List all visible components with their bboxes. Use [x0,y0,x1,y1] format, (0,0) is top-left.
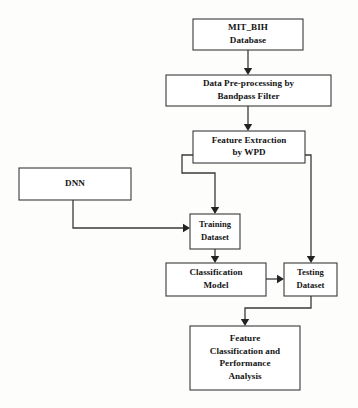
node-testing_dataset[interactable]: TestingDataset [284,263,337,296]
flowchart-canvas: MIT_BIHDatabaseData Pre-processing byBan… [0,0,358,408]
arrowhead-icon [277,275,284,283]
edge-testing-to-feature-classification [241,296,311,326]
node-label: Data Pre-processing by [203,78,295,88]
node-label: by WPD [232,147,266,157]
edge-database-to-preprocessing [244,50,252,75]
node-label: Bandpass Filter [217,91,279,101]
node-label: Feature Extraction [212,135,287,145]
node-label: Testing [297,267,324,277]
node-label: Dataset [201,232,229,242]
arrowhead-icon [211,207,219,214]
node-training_dataset[interactable]: TrainingDataset [190,214,240,249]
connector-line [245,296,311,320]
node-dnn[interactable]: DNN [19,168,131,200]
nodes-layer: MIT_BIHDatabaseData Pre-processing byBan… [19,19,337,390]
node-classification_model[interactable]: ClassificationModel [166,263,266,296]
edge-training-to-classification [211,249,219,263]
node-label: Classification and [210,346,280,356]
arrowhead-icon [244,68,252,75]
node-label: Model [203,280,228,290]
flowchart-page: MIT_BIHDatabaseData Pre-processing byBan… [0,0,358,408]
arrowhead-icon [307,256,315,263]
node-label: Performance [219,358,270,368]
connector-line [73,200,184,228]
arrowhead-icon [241,319,249,326]
node-label: Database [230,35,266,45]
node-label: DNN [65,178,85,188]
edge-preprocessing-to-extraction [244,106,252,131]
node-data_preprocessing[interactable]: Data Pre-processing byBandpass Filter [166,75,331,106]
node-label: Feature [230,333,260,343]
node-label: MIT_BIH [228,22,268,32]
arrowhead-icon [211,256,219,263]
node-label: Analysis [228,371,262,381]
node-feature_classification[interactable]: FeatureClassification andPerformanceAnal… [190,326,300,390]
edge-extraction-to-training [182,155,219,214]
edge-classification-to-testing [266,275,284,283]
arrowhead-icon [244,124,252,131]
arrowhead-icon [183,224,190,232]
edge-dnn-to-training [73,200,190,232]
connector-line [305,155,311,257]
node-mit_bih_database[interactable]: MIT_BIHDatabase [193,19,303,50]
node-label: Training [199,219,232,229]
edge-extraction-to-testing [305,155,315,263]
node-label: Dataset [296,280,324,290]
node-label: Classification [189,267,242,277]
node-feature_extraction[interactable]: Feature Extractionby WPD [193,131,305,163]
